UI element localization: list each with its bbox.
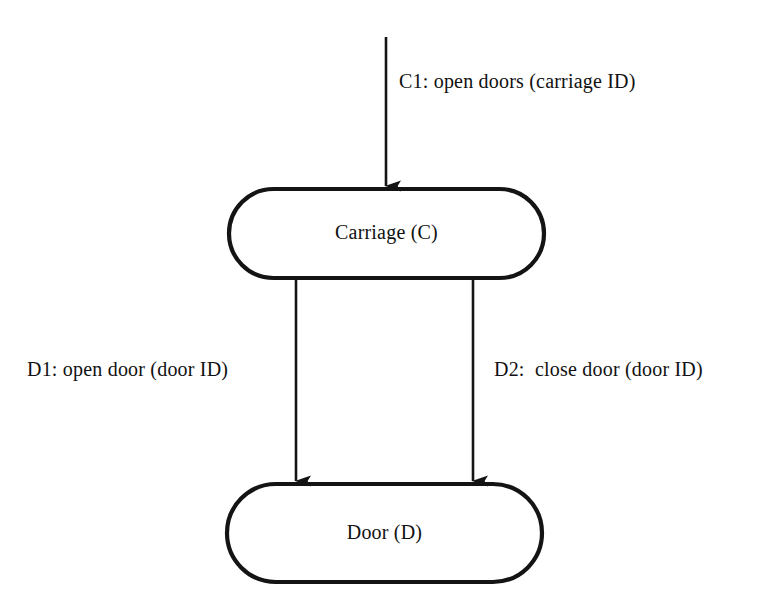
node-carriage-label: Carriage (C) <box>228 221 545 244</box>
edge-d2-label: D2: close door (door ID) <box>494 358 703 381</box>
edge-d1-label: D1: open door (door ID) <box>27 358 228 381</box>
node-door-label: Door (D) <box>226 521 543 544</box>
edge-c1-label: C1: open doors (carriage ID) <box>399 70 636 93</box>
diagram-canvas: Carriage (C) Door (D) C1: open doors (ca… <box>0 0 780 616</box>
